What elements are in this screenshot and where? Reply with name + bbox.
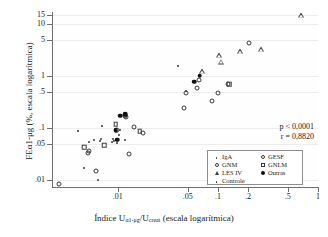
data-point-gesf (131, 125, 136, 130)
data-point-gesf (247, 41, 252, 46)
legend-item-gnm[interactable]: GNM (212, 161, 245, 169)
y-axis-line (52, 12, 53, 188)
data-point-outras (118, 113, 123, 118)
legend-item-label: GNM (222, 161, 237, 169)
y-tick-label: 1 (0, 72, 45, 80)
triangle-marker-icon (237, 53, 243, 58)
legend-column-left: IgAGNMLES IVControle (212, 153, 245, 185)
y-tick-label: 10 (0, 20, 45, 28)
legend-item-controle[interactable]: Controle (212, 177, 245, 185)
data-point-controle (99, 140, 101, 142)
data-point-gesf (215, 90, 220, 95)
y-tick-label: .01 (0, 176, 45, 184)
data-point-controle (177, 65, 179, 67)
open-square-icon (258, 161, 267, 169)
data-point-les-iv (255, 46, 261, 51)
data-point-controle (97, 179, 99, 181)
gridline-y (53, 40, 318, 41)
triangle-marker-icon (258, 51, 264, 56)
data-point-controle (124, 139, 126, 141)
p-value-text: p < 0,0001 (279, 122, 314, 132)
data-point-gnlm (137, 129, 142, 134)
data-point-outras (123, 112, 128, 117)
gridline-y (53, 24, 318, 25)
x-tick-label: .01 (106, 193, 130, 201)
x-tick-label: .2 (236, 193, 260, 201)
y-tick-mark (47, 144, 52, 145)
data-point-les-iv (215, 59, 221, 64)
r-value-text: r = 0,8820 (279, 132, 314, 142)
data-point-les-iv (213, 52, 219, 57)
data-point-gnlm (82, 145, 87, 150)
y-tick-mark (47, 24, 52, 25)
legend-item-gnlm[interactable]: GNLM (258, 161, 287, 169)
legend-item-iga[interactable]: IgA (212, 153, 245, 161)
gridline-y (53, 128, 318, 129)
data-point-iga (119, 129, 121, 131)
data-point-gesf (209, 99, 214, 104)
x-axis-title-mid: /U (140, 213, 149, 223)
legend-item-les-iv[interactable]: LES IV (212, 169, 245, 177)
legend-item-label: Outras (268, 169, 285, 177)
y-tick-label: .1 (0, 124, 45, 132)
x-axis-title-sub1: α1-μg (125, 217, 139, 223)
gridline-y (53, 15, 318, 16)
open-triangle-icon (212, 169, 221, 177)
y-tick-label: 5 (0, 36, 45, 44)
x-tick-label: .05 (176, 193, 200, 201)
data-point-les-iv (234, 48, 240, 53)
y-tick-label: .5 (0, 88, 45, 96)
y-axis-title: FEα1-μg (%, escala logarítmica) (24, 16, 34, 186)
data-point-outras (113, 128, 118, 133)
x-axis-title-suffix: (escala logarítmica) (160, 213, 233, 223)
filled-circle-icon (258, 169, 267, 177)
open-circle-icon (258, 153, 267, 161)
data-point-controle (100, 138, 102, 140)
legend-item-gesf[interactable]: GESF (258, 153, 287, 161)
data-point-gesf (86, 148, 91, 153)
statistics-annotation: p < 0,0001 r = 0,8820 (279, 122, 314, 142)
triangle-marker-icon (298, 17, 304, 22)
open-circle-icon (212, 161, 221, 169)
y-tick-label: .05 (0, 140, 45, 148)
legend-item-label: LES IV (222, 169, 242, 177)
data-point-controle (77, 130, 79, 132)
legend-item-outras[interactable]: Outras (258, 169, 287, 177)
scatter-chart-figure: .01.05.1.5151015 .01.05.1.2.51 FEα1-μg (… (0, 0, 328, 237)
data-point-outras (198, 73, 203, 78)
data-point-gnlm (102, 143, 107, 148)
dot-icon (212, 153, 221, 161)
data-point-gnm (93, 168, 98, 173)
y-tick-label: 15 (0, 11, 45, 19)
y-tick-mark (47, 180, 52, 181)
dot-icon (212, 177, 221, 185)
legend-item-label: IgA (222, 153, 232, 161)
x-axis-title: Índice Uα1-μg/Ucreat (escala logarítmica… (0, 213, 328, 223)
data-point-outras (115, 138, 120, 143)
gridline-y (53, 144, 318, 145)
data-point-controle (116, 142, 118, 144)
legend-item-label: GESF (268, 153, 284, 161)
x-axis-title-prefix: Índice U (94, 213, 125, 223)
data-point-controle (83, 167, 85, 169)
data-point-controle (93, 139, 95, 141)
data-point-gesf (195, 86, 200, 91)
data-point-gnlm (113, 122, 118, 127)
data-point-gesf (126, 152, 131, 157)
x-tick-label: 1 (306, 193, 328, 201)
y-tick-mark (47, 92, 52, 93)
data-point-gesf (181, 105, 186, 110)
legend-item-label: GNLM (268, 161, 287, 169)
x-axis-title-sub2: creat (149, 217, 161, 223)
data-point-outras (192, 79, 197, 84)
data-point-gnlm (227, 82, 232, 87)
data-point-controle (101, 125, 103, 127)
gridline-y (53, 76, 318, 77)
data-point-controle (88, 141, 90, 143)
x-tick-label: .1 (206, 193, 230, 201)
legend-item-label: Controle (222, 177, 245, 185)
x-axis-line (52, 187, 319, 188)
data-point-les-iv (295, 12, 301, 17)
y-tick-mark (47, 128, 52, 129)
data-point-controle (118, 134, 120, 136)
